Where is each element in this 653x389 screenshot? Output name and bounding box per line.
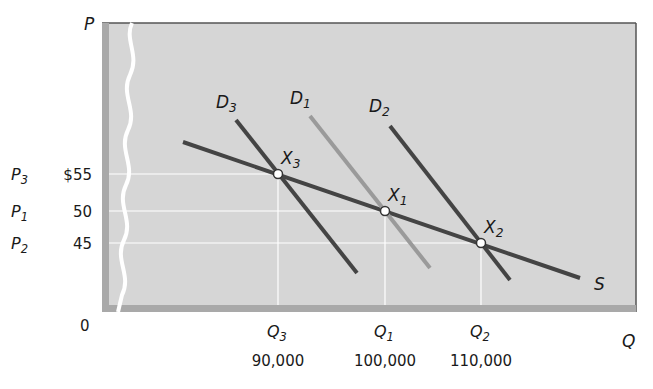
supply-demand-chart: P3$55P150P245Q390,000Q1100,000Q2110,000S… — [0, 0, 653, 389]
x-tick-symbol: Q3 — [267, 322, 287, 344]
x-tick-symbol: Q2 — [470, 322, 490, 344]
frame-shadow-left — [102, 23, 109, 312]
frame-shadow-bottom — [102, 305, 636, 312]
y-tick-value: 50 — [73, 203, 92, 221]
y-tick-symbol: P2 — [11, 234, 28, 256]
x-tick-value: 110,000 — [450, 352, 512, 370]
y-tick-value: 45 — [73, 235, 92, 253]
point-X1 — [381, 207, 390, 216]
y-tick-symbol: P3 — [11, 165, 28, 187]
y-tick-value: $55 — [63, 166, 92, 184]
y-axis-label: P — [84, 14, 95, 34]
x-tick-value: 100,000 — [354, 352, 416, 370]
x-tick-value: 90,000 — [252, 352, 305, 370]
point-X2 — [477, 239, 486, 248]
origin-label: 0 — [80, 317, 90, 335]
x-tick-symbol: Q1 — [374, 322, 394, 344]
curve-label-S: S — [594, 274, 605, 294]
y-tick-symbol: P1 — [11, 202, 28, 224]
x-axis-label: Q — [622, 331, 635, 351]
point-X3 — [274, 170, 283, 179]
